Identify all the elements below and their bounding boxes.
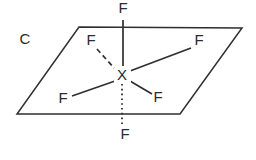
fluorine-axial-bottom-label: F — [120, 125, 129, 142]
fluorine-axial-top-label: F — [118, 0, 127, 16]
figure-canvas: C F F F F F F X — [0, 0, 256, 160]
panel-label-c: C — [20, 30, 31, 47]
fluorine-equatorial-upper-left-label: F — [86, 31, 95, 48]
bond-equatorial-lower-right — [130, 81, 152, 94]
bond-equatorial-lower-left — [72, 81, 115, 96]
fluorine-equatorial-lower-right-label: F — [153, 88, 162, 105]
fluorine-equatorial-upper-right-label: F — [194, 31, 203, 48]
molecular-geometry-figure: C F F F F F F X — [0, 0, 256, 160]
bond-equatorial-upper-left — [97, 49, 115, 69]
fluorine-equatorial-lower-left-label: F — [58, 89, 67, 106]
central-atom-x-label: X — [117, 66, 127, 83]
bond-equatorial-upper-right — [130, 48, 191, 71]
